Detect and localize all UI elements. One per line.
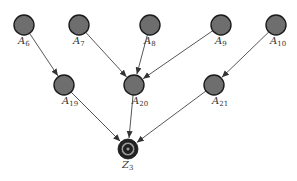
node-circle [211, 15, 231, 35]
edge-A10-to-A21 [222, 32, 269, 77]
node-circle [204, 75, 224, 95]
edge-A7-to-A20 [86, 32, 127, 77]
node-A19: A19 [54, 75, 78, 108]
node-circle [124, 75, 144, 95]
node-circle [69, 15, 89, 35]
edge-A9-to-A20 [143, 31, 213, 79]
node-A8: A8 [140, 15, 160, 48]
node-circle [266, 15, 286, 35]
edge-A19-to-Z3 [71, 92, 120, 141]
edge-A6-to-A19 [30, 33, 58, 76]
node-label: A20 [131, 95, 148, 108]
node-A10: A10 [266, 15, 286, 48]
node-Z3: Z3 [118, 139, 138, 172]
node-A9: A9 [211, 15, 231, 48]
bayesian-network-diagram: A6A7A8A9A10A19A20A21Z3 [0, 0, 297, 181]
node-label: Z3 [121, 159, 133, 172]
node-label: A7 [72, 35, 85, 48]
node-label: A6 [17, 35, 30, 48]
nodes: A6A7A8A9A10A19A20A21Z3 [14, 15, 286, 172]
node-circle [54, 75, 74, 95]
node-A20: A20 [124, 75, 148, 108]
target-node-ring [126, 147, 130, 151]
node-label: A21 [211, 95, 228, 108]
node-label: A10 [269, 35, 286, 48]
node-circle [140, 15, 160, 35]
node-label: A8 [143, 35, 156, 48]
node-A21: A21 [204, 75, 228, 108]
node-circle [14, 15, 34, 35]
node-A7: A7 [69, 15, 89, 48]
edge-A21-to-Z3 [137, 91, 206, 142]
node-A6: A6 [14, 15, 34, 48]
node-label: A9 [214, 35, 227, 48]
